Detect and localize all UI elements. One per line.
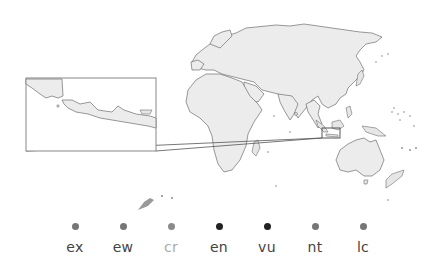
- status-dot-icon: [72, 223, 79, 230]
- legend-item-cr[interactable]: cr: [151, 223, 191, 255]
- status-dot-icon: [168, 223, 175, 230]
- legend-label: ew: [103, 239, 143, 255]
- legend-label: cr: [151, 239, 191, 255]
- status-dot-icon: [360, 223, 367, 230]
- legend-label: ex: [55, 239, 95, 255]
- legend-label: vu: [247, 239, 287, 255]
- philippines: [346, 106, 352, 118]
- status-dot-icon: [216, 223, 223, 230]
- world-range-map: [0, 0, 442, 210]
- legend-label: en: [199, 239, 239, 255]
- legend-item-nt[interactable]: nt: [295, 223, 335, 255]
- legend-item-vu[interactable]: vu: [247, 223, 287, 255]
- status-dot-icon: [264, 223, 271, 230]
- java-small: [326, 134, 338, 137]
- australia: [336, 138, 384, 176]
- sri-lanka: [295, 113, 298, 116]
- legend-item-ew[interactable]: ew: [103, 223, 143, 255]
- conservation-status-legend: ex ew cr en vu nt lc: [0, 223, 442, 263]
- status-dot-icon: [312, 223, 319, 230]
- legend-item-en[interactable]: en: [199, 223, 239, 255]
- legend-item-ex[interactable]: ex: [55, 223, 95, 255]
- legend-item-lc[interactable]: lc: [343, 223, 383, 255]
- south-america-fragment: [138, 198, 154, 210]
- tasmania: [364, 180, 368, 184]
- legend-label: nt: [295, 239, 335, 255]
- madagascar: [252, 140, 260, 156]
- status-dot-icon: [120, 223, 127, 230]
- new-zealand: [386, 170, 404, 188]
- new-guinea: [362, 126, 386, 136]
- borneo: [332, 120, 344, 130]
- legend-label: lc: [343, 239, 383, 255]
- inset-madura: [140, 110, 152, 114]
